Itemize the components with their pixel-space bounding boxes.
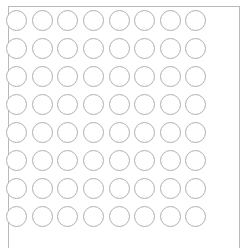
- grid-cell[interactable]: [30, 174, 56, 202]
- circle-icon[interactable]: [160, 178, 181, 199]
- circle-icon[interactable]: [57, 206, 78, 227]
- grid-cell[interactable]: [55, 202, 81, 230]
- grid-cell[interactable]: [4, 118, 30, 146]
- circle-icon[interactable]: [134, 10, 155, 31]
- circle-icon[interactable]: [109, 150, 130, 171]
- circle-icon[interactable]: [109, 94, 130, 115]
- grid-cell[interactable]: [106, 146, 132, 174]
- grid-cell[interactable]: [158, 202, 184, 230]
- circle-icon[interactable]: [6, 38, 27, 59]
- circle-icon[interactable]: [134, 150, 155, 171]
- circle-icon[interactable]: [32, 150, 53, 171]
- grid-cell[interactable]: [132, 146, 158, 174]
- circle-icon[interactable]: [83, 38, 104, 59]
- grid-cell[interactable]: [55, 34, 81, 62]
- grid-cell[interactable]: [132, 202, 158, 230]
- circle-icon[interactable]: [160, 10, 181, 31]
- grid-cell[interactable]: [55, 90, 81, 118]
- grid-cell[interactable]: [106, 62, 132, 90]
- grid-cell[interactable]: [132, 90, 158, 118]
- grid-cell[interactable]: [183, 174, 209, 202]
- grid-cell[interactable]: [106, 174, 132, 202]
- grid-cell[interactable]: [30, 146, 56, 174]
- grid-cell[interactable]: [158, 34, 184, 62]
- grid-cell[interactable]: [106, 90, 132, 118]
- grid-cell[interactable]: [81, 174, 107, 202]
- grid-cell[interactable]: [132, 62, 158, 90]
- circle-icon[interactable]: [160, 206, 181, 227]
- circle-icon[interactable]: [57, 94, 78, 115]
- grid-cell[interactable]: [4, 146, 30, 174]
- circle-icon[interactable]: [185, 178, 206, 199]
- grid-cell[interactable]: [55, 6, 81, 34]
- grid-cell[interactable]: [4, 202, 30, 230]
- circle-icon[interactable]: [57, 38, 78, 59]
- circle-icon[interactable]: [6, 178, 27, 199]
- grid-cell[interactable]: [30, 90, 56, 118]
- circle-icon[interactable]: [83, 206, 104, 227]
- grid-cell[interactable]: [55, 118, 81, 146]
- grid-cell[interactable]: [158, 146, 184, 174]
- grid-cell[interactable]: [183, 118, 209, 146]
- circle-icon[interactable]: [6, 150, 27, 171]
- grid-cell[interactable]: [183, 146, 209, 174]
- grid-cell[interactable]: [55, 62, 81, 90]
- circle-icon[interactable]: [83, 94, 104, 115]
- circle-icon[interactable]: [57, 122, 78, 143]
- grid-cell[interactable]: [132, 118, 158, 146]
- circle-icon[interactable]: [83, 122, 104, 143]
- grid-cell[interactable]: [81, 118, 107, 146]
- grid-cell[interactable]: [183, 202, 209, 230]
- grid-cell[interactable]: [4, 174, 30, 202]
- grid-cell[interactable]: [158, 174, 184, 202]
- circle-icon[interactable]: [134, 178, 155, 199]
- circle-icon[interactable]: [109, 66, 130, 87]
- circle-icon[interactable]: [185, 94, 206, 115]
- circle-icon[interactable]: [32, 122, 53, 143]
- circle-icon[interactable]: [160, 122, 181, 143]
- grid-cell[interactable]: [30, 202, 56, 230]
- grid-cell[interactable]: [30, 62, 56, 90]
- grid-cell[interactable]: [81, 34, 107, 62]
- circle-icon[interactable]: [83, 150, 104, 171]
- circle-icon[interactable]: [109, 10, 130, 31]
- circle-icon[interactable]: [83, 178, 104, 199]
- circle-icon[interactable]: [185, 122, 206, 143]
- circle-icon[interactable]: [134, 94, 155, 115]
- grid-cell[interactable]: [30, 34, 56, 62]
- grid-cell[interactable]: [183, 6, 209, 34]
- grid-cell[interactable]: [106, 118, 132, 146]
- circle-icon[interactable]: [57, 66, 78, 87]
- circle-icon[interactable]: [32, 178, 53, 199]
- grid-cell[interactable]: [132, 34, 158, 62]
- circle-icon[interactable]: [32, 206, 53, 227]
- grid-cell[interactable]: [4, 6, 30, 34]
- grid-cell[interactable]: [132, 174, 158, 202]
- circle-icon[interactable]: [6, 66, 27, 87]
- circle-icon[interactable]: [160, 94, 181, 115]
- grid-cell[interactable]: [132, 6, 158, 34]
- grid-cell[interactable]: [183, 90, 209, 118]
- circle-icon[interactable]: [32, 38, 53, 59]
- grid-cell[interactable]: [106, 34, 132, 62]
- grid-cell[interactable]: [81, 202, 107, 230]
- circle-icon[interactable]: [109, 178, 130, 199]
- circle-icon[interactable]: [160, 150, 181, 171]
- circle-icon[interactable]: [109, 122, 130, 143]
- circle-icon[interactable]: [185, 38, 206, 59]
- circle-icon[interactable]: [134, 206, 155, 227]
- grid-cell[interactable]: [106, 202, 132, 230]
- circle-icon[interactable]: [160, 38, 181, 59]
- grid-cell[interactable]: [106, 6, 132, 34]
- grid-cell[interactable]: [158, 62, 184, 90]
- circle-icon[interactable]: [32, 10, 53, 31]
- circle-icon[interactable]: [185, 66, 206, 87]
- grid-cell[interactable]: [55, 146, 81, 174]
- circle-icon[interactable]: [83, 66, 104, 87]
- circle-icon[interactable]: [6, 10, 27, 31]
- circle-icon[interactable]: [109, 206, 130, 227]
- grid-cell[interactable]: [30, 118, 56, 146]
- circle-icon[interactable]: [134, 122, 155, 143]
- circle-icon[interactable]: [57, 178, 78, 199]
- grid-cell[interactable]: [81, 146, 107, 174]
